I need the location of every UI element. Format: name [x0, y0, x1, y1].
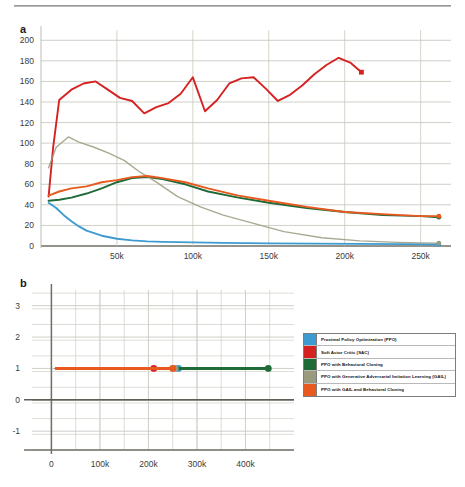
svg-text:60: 60 [25, 179, 35, 189]
legend-swatch-ppo [304, 334, 317, 345]
svg-text:140: 140 [20, 97, 34, 107]
legend: Proximal Policy Optimization (PPO) Soft … [303, 333, 456, 397]
legend-label-ppo-bc: PPO with Behavioral Cloning [317, 362, 383, 367]
legend-label-sac: Soft Actor Critic (SAC) [317, 350, 369, 355]
svg-text:100k: 100k [184, 251, 203, 261]
legend-item[interactable]: Proximal Policy Optimization (PPO) [304, 334, 455, 346]
svg-text:100k: 100k [91, 459, 110, 469]
svg-text:120: 120 [20, 118, 34, 128]
svg-text:1: 1 [15, 363, 20, 373]
figure-container: a b 50k100k150k200k250k02040608010012014… [0, 0, 465, 487]
legend-item[interactable]: PPO with Generative Adversarial Imitatio… [304, 371, 455, 383]
legend-item[interactable]: Soft Actor Critic (SAC) [304, 346, 455, 358]
svg-text:2: 2 [15, 332, 20, 342]
legend-swatch-ppo-gail [304, 371, 317, 382]
legend-label-ppo-gail-bc: PPO with GAIL and Behavioral Cloning [317, 387, 404, 392]
legend-item[interactable]: PPO with GAIL and Behavioral Cloning [304, 384, 455, 396]
svg-text:-1: -1 [12, 426, 20, 436]
svg-text:160: 160 [20, 76, 34, 86]
svg-text:100: 100 [20, 138, 34, 148]
svg-text:50k: 50k [110, 251, 124, 261]
svg-text:80: 80 [25, 159, 35, 169]
svg-text:3: 3 [15, 301, 20, 311]
legend-swatch-sac [304, 346, 317, 357]
svg-text:200k: 200k [335, 251, 354, 261]
svg-text:40: 40 [25, 200, 35, 210]
legend-swatch-ppo-gail-bc [304, 384, 317, 396]
svg-text:300k: 300k [188, 459, 207, 469]
svg-text:180: 180 [20, 56, 34, 66]
legend-label-ppo: Proximal Policy Optimization (PPO) [317, 337, 397, 342]
panel-a-chart: 50k100k150k200k250k020406080100120140160… [0, 20, 465, 270]
svg-text:250k: 250k [411, 251, 430, 261]
legend-item[interactable]: PPO with Behavioral Cloning [304, 359, 455, 371]
svg-text:200k: 200k [139, 459, 158, 469]
top-divider-rule [14, 5, 451, 7]
svg-text:400k: 400k [236, 459, 255, 469]
legend-swatch-ppo-bc [304, 359, 317, 370]
svg-text:150k: 150k [260, 251, 279, 261]
svg-text:20: 20 [25, 220, 35, 230]
svg-text:0: 0 [29, 241, 34, 251]
svg-text:0: 0 [15, 395, 20, 405]
panel-b-chart: 0100k200k300k400k-10123 [0, 282, 310, 482]
svg-text:200: 200 [20, 35, 34, 45]
svg-text:0: 0 [49, 459, 54, 469]
legend-label-ppo-gail: PPO with Generative Adversarial Imitatio… [317, 374, 446, 379]
